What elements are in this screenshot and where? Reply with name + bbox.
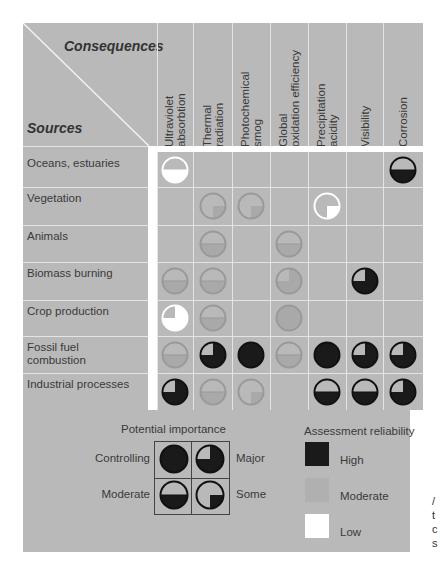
grid-line (308, 23, 309, 410)
symbol-controlling-high-icon (313, 341, 341, 369)
grid-line (193, 23, 194, 410)
symbol-major-high-icon (389, 378, 417, 406)
symbol-moderate-moderate-icon (275, 341, 303, 369)
importance-title: Potential importance (121, 423, 226, 435)
caption-fragment: s (432, 537, 438, 550)
symbol-controlling-high-icon (237, 341, 265, 369)
legend-major-icon (195, 444, 225, 474)
grid-line (23, 225, 423, 226)
column-header: Precipitationacidity (315, 84, 339, 147)
symbol-moderate-moderate-icon (199, 267, 227, 295)
reliability-moderate-label: Moderate (340, 490, 389, 502)
grid-line (23, 300, 423, 301)
legend-some-icon (195, 480, 225, 510)
symbol-major-high-icon (161, 378, 189, 406)
symbol-some-moderate-icon (237, 192, 265, 220)
column-header: Ultravioletabsorbtion (163, 93, 187, 147)
grid-line (23, 373, 423, 374)
caption-fragment: c (432, 523, 438, 536)
sources-label: Sources (27, 120, 82, 136)
reliability-low-swatch (305, 514, 329, 538)
caption-fragment: t (432, 509, 435, 522)
legend-major-label: Major (236, 452, 265, 464)
grid-line (232, 23, 233, 410)
grid-line (383, 23, 384, 410)
symbol-some-moderate-icon (199, 192, 227, 220)
grid-line (346, 23, 347, 410)
label-separator (148, 146, 157, 410)
caption-fragment: / (432, 495, 435, 508)
grid-line (23, 262, 423, 263)
reliability-low-label: Low (340, 526, 361, 538)
grid-line (23, 187, 423, 188)
symbol-moderate-moderate-icon (275, 230, 303, 258)
legend-controlling-icon (159, 444, 189, 474)
symbol-major-high-icon (351, 341, 379, 369)
row-label: Animals (27, 230, 68, 243)
symbol-major-moderate-icon (275, 267, 303, 295)
symbol-moderate-high-icon (351, 378, 379, 406)
row-label: Fossil fuelcombustion (27, 341, 86, 367)
column-header: Corrosion (397, 97, 409, 147)
reliability-title: Assessment reliability (304, 425, 415, 437)
symbol-moderate-moderate-icon (199, 230, 227, 258)
column-header: Thermalradiation (201, 103, 225, 147)
legend-controlling-label: Controlling (95, 452, 150, 464)
column-header: Photochemicalsmog (239, 72, 263, 147)
legend-moderate-label: Moderate (101, 488, 150, 500)
symbol-moderate-high-icon (389, 156, 417, 184)
symbol-major-high-icon (389, 341, 417, 369)
symbol-moderate-high-icon (313, 378, 341, 406)
symbol-moderate-moderate-icon (161, 341, 189, 369)
row-label: Crop production (27, 305, 109, 318)
column-header: Globaloxidation efficiency (277, 50, 301, 147)
header-separator (148, 146, 423, 152)
symbol-major-low-icon (161, 304, 189, 332)
grid-line (23, 336, 423, 337)
symbol-some-moderate-icon (237, 378, 265, 406)
legend-some-label: Some (236, 488, 266, 500)
row-label: Oceans, estuaries (27, 157, 120, 170)
consequences-label: Consequences (64, 38, 164, 54)
row-label: Vegetation (27, 192, 81, 205)
column-header: Visibility (359, 106, 371, 147)
left-separator (23, 146, 148, 147)
symbol-major-high-icon (199, 341, 227, 369)
symbol-moderate-moderate-icon (161, 267, 189, 295)
symbol-moderate-moderate-icon (199, 378, 227, 406)
symbol-major-high-icon (351, 267, 379, 295)
reliability-high-label: High (340, 454, 364, 466)
symbol-controlling-moderate-icon (275, 304, 303, 332)
row-label: Biomass burning (27, 267, 113, 280)
legend-moderate-icon (159, 480, 189, 510)
symbol-some-low-icon (313, 192, 341, 220)
reliability-moderate-swatch (305, 478, 329, 502)
grid-line (270, 23, 271, 410)
symbol-moderate-moderate-icon (199, 304, 227, 332)
reliability-high-swatch (305, 442, 329, 466)
symbol-moderate-low-icon (161, 156, 189, 184)
row-label: Industrial processes (27, 378, 129, 391)
grid-line (157, 23, 158, 410)
